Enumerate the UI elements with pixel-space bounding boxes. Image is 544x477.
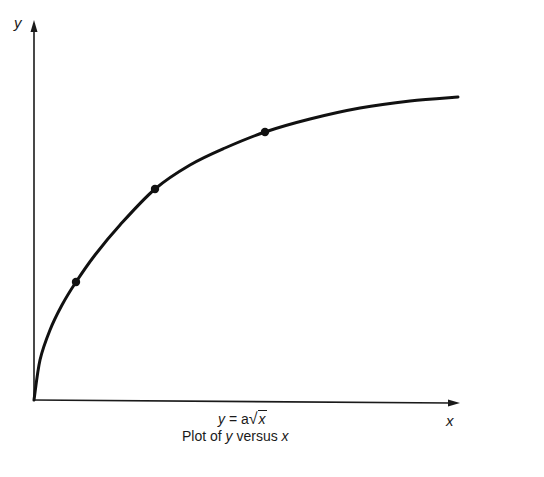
equation-radicand: x xyxy=(258,410,267,427)
equation-eq: = a xyxy=(225,411,249,427)
y-axis-label: y xyxy=(14,14,22,31)
sqrt-sign-icon: √ xyxy=(249,410,258,427)
x-axis xyxy=(33,400,450,403)
caption-mid: versus xyxy=(233,428,282,444)
plot-canvas xyxy=(0,0,544,477)
data-point-3 xyxy=(261,128,269,136)
sqrt-curve xyxy=(34,97,458,400)
caption-pre: Plot of xyxy=(182,428,226,444)
data-point-2 xyxy=(151,185,159,193)
caption-x: x xyxy=(282,428,289,444)
data-point-1 xyxy=(72,278,80,286)
equation-label: y = a√x xyxy=(218,410,267,428)
y-axis-arrow-icon xyxy=(31,20,38,32)
x-axis-label: x xyxy=(446,412,454,429)
caption: Plot of y versus x xyxy=(182,428,289,444)
x-axis-arrow-icon xyxy=(448,400,460,407)
caption-y: y xyxy=(226,428,233,444)
equation-y: y xyxy=(218,411,225,427)
